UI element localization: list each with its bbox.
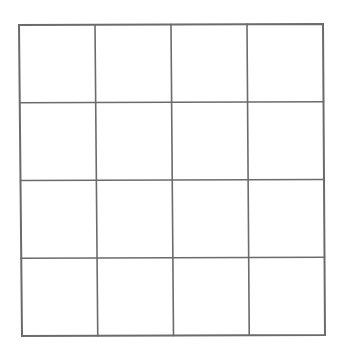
grid-cell-r4-c3	[173, 258, 249, 336]
grid-cell-r4-c4	[249, 257, 325, 335]
grid-cell-r2-c1	[20, 103, 97, 181]
horizontal-grid-line-3	[21, 257, 324, 258]
grid-cell-r1-c2	[95, 25, 172, 103]
grid-diagram	[0, 0, 340, 358]
horizontal-grid-line-2	[21, 180, 325, 181]
grid-cell-r4-c2	[97, 258, 173, 336]
grid-cell-r3-c4	[248, 180, 324, 258]
grid-cell-r1-c3	[171, 24, 248, 102]
grid-cell-r2-c2	[96, 102, 173, 180]
grid-cell-r2-c4	[248, 102, 324, 180]
grid-cell-r1-c4	[247, 24, 324, 102]
horizontal-grid-line-1	[20, 102, 324, 103]
grid-cell-r1-c1	[19, 25, 96, 103]
grid-cell-r4-c1	[21, 258, 98, 336]
grid-cell-r3-c2	[96, 180, 173, 258]
grid-cell-r3-c1	[21, 180, 98, 258]
grid-cell-r2-c3	[172, 102, 249, 180]
grid-cell-r3-c3	[172, 180, 248, 258]
